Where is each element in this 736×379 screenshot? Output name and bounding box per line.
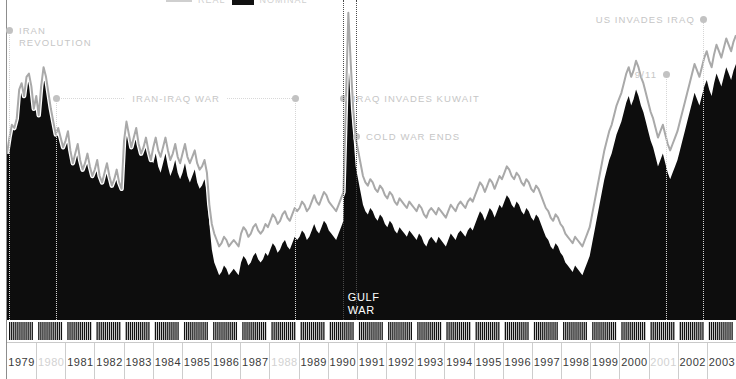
month-tick: [53, 322, 54, 340]
month-tick: [515, 322, 516, 340]
x-axis-tick-1983[interactable]: 1983: [124, 343, 153, 379]
month-tick: [655, 322, 656, 340]
x-axis-tick-1992[interactable]: 1992: [386, 343, 415, 379]
month-tick: [417, 322, 418, 340]
month-tick: [105, 322, 106, 340]
month-tick: [101, 322, 102, 340]
x-axis-tick-1995[interactable]: 1995: [474, 343, 503, 379]
x-axis-tick-1991[interactable]: 1991: [357, 343, 386, 379]
x-axis-tick-1982[interactable]: 1982: [94, 343, 123, 379]
x-axis-tick-2000[interactable]: 2000: [619, 343, 648, 379]
x-axis-tick-1989[interactable]: 1989: [299, 343, 328, 379]
month-tick: [480, 322, 481, 340]
month-tick: [511, 322, 512, 340]
month-tick: [684, 322, 685, 340]
month-tick: [57, 322, 58, 340]
x-axis-tick-label: 1997: [534, 356, 560, 368]
month-tick: [419, 322, 420, 340]
month-tick: [146, 322, 147, 340]
month-tick: [230, 322, 231, 340]
month-tick: [140, 322, 141, 340]
month-tick: [163, 322, 164, 340]
month-tick: [563, 322, 564, 340]
x-axis-tick-1986[interactable]: 1986: [211, 343, 240, 379]
month-tick: [459, 322, 460, 340]
x-axis-tick-1988[interactable]: 1988: [269, 343, 298, 379]
month-tick: [448, 322, 449, 340]
month-tick: [394, 322, 395, 340]
x-axis-tick-1981[interactable]: 1981: [65, 343, 94, 379]
month-tick: [219, 322, 220, 340]
month-tick: [542, 322, 543, 340]
month-tick: [25, 322, 26, 340]
month-tick: [509, 322, 510, 340]
month-tick: [369, 322, 370, 340]
month-tick: [582, 322, 583, 340]
x-axis-tick-1996[interactable]: 1996: [503, 343, 532, 379]
month-tick: [446, 322, 447, 340]
month-tick: [253, 322, 254, 340]
x-axis-tick-2003[interactable]: 2003: [707, 343, 736, 379]
x-axis-tick-1980[interactable]: 1980: [36, 343, 65, 379]
month-tick: [142, 322, 143, 340]
month-tick: [373, 322, 374, 340]
month-tick: [48, 322, 49, 340]
month-tick: [453, 322, 454, 340]
month-tick: [282, 322, 283, 340]
month-tick: [379, 322, 380, 340]
month-tick: [488, 322, 489, 340]
x-axis-tick-label: 2001: [650, 356, 676, 368]
month-tick: [594, 322, 595, 340]
month-tick: [340, 322, 341, 340]
month-tick: [99, 322, 100, 340]
month-tick: [342, 322, 343, 340]
month-tick: [307, 322, 308, 340]
x-axis-tick-2001[interactable]: 2001: [649, 343, 678, 379]
month-tick: [382, 322, 383, 340]
month-tick: [546, 322, 547, 340]
x-axis-tick-1985[interactable]: 1985: [182, 343, 211, 379]
month-tick: [478, 322, 479, 340]
x-axis-tick-label: 1996: [505, 356, 531, 368]
month-tick: [731, 322, 732, 340]
month-tick: [663, 322, 664, 340]
x-axis-tick-2002[interactable]: 2002: [678, 343, 707, 379]
month-tick: [525, 322, 526, 340]
x-axis-tick-1984[interactable]: 1984: [153, 343, 182, 379]
month-tick: [686, 322, 687, 340]
month-tick: [625, 322, 626, 340]
month-tick: [554, 322, 555, 340]
month-tick: [228, 322, 229, 340]
month-tick: [236, 322, 237, 340]
month-tick: [169, 322, 170, 340]
month-tick: [496, 322, 497, 340]
month-tick: [255, 322, 256, 340]
month-tick: [400, 322, 401, 340]
month-tick: [669, 322, 670, 340]
month-tick: [132, 322, 133, 340]
x-axis-tick-label: 1985: [184, 356, 210, 368]
month-tick: [377, 322, 378, 340]
x-axis-tick-1979[interactable]: 1979: [7, 343, 36, 379]
x-axis-tick-1999[interactable]: 1999: [590, 343, 619, 379]
month-tick: [119, 322, 120, 340]
month-tick: [128, 322, 129, 340]
month-tick: [436, 322, 437, 340]
x-axis-tick-1998[interactable]: 1998: [561, 343, 590, 379]
month-tick: [615, 322, 616, 340]
month-tick: [242, 322, 243, 340]
month-tick: [80, 322, 81, 340]
month-tick: [86, 322, 87, 340]
x-axis-tick-1993[interactable]: 1993: [415, 343, 444, 379]
month-tick: [609, 322, 610, 340]
month-tick: [632, 322, 633, 340]
month-tick: [482, 322, 483, 340]
month-tick: [536, 322, 537, 340]
month-tick: [577, 322, 578, 340]
x-axis-tick-1987[interactable]: 1987: [240, 343, 269, 379]
x-axis-tick-1994[interactable]: 1994: [444, 343, 473, 379]
month-tick: [534, 322, 535, 340]
x-axis-tick-label: 1991: [359, 356, 385, 368]
x-axis-tick-1997[interactable]: 1997: [532, 343, 561, 379]
x-axis-tick-1990[interactable]: 1990: [328, 343, 357, 379]
